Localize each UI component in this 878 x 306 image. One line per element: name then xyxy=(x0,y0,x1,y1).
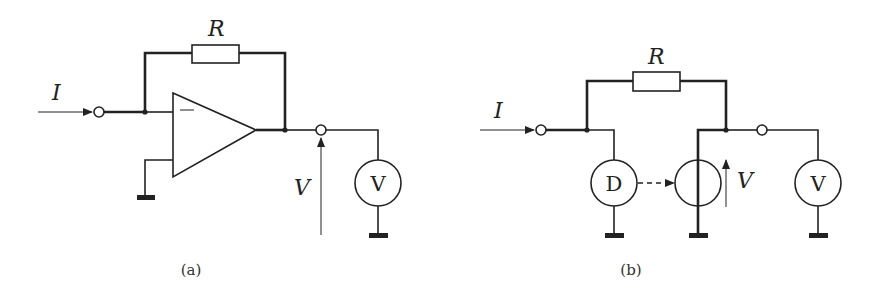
caption-a: (a) xyxy=(181,261,202,279)
voltage-label: V xyxy=(737,168,755,193)
feedback-wire-right xyxy=(680,81,726,130)
op-amp xyxy=(173,93,256,177)
ground-icon xyxy=(809,233,828,238)
output-terminal xyxy=(316,125,326,135)
resistor-label: R xyxy=(647,44,665,69)
feedback-resistor xyxy=(192,45,239,63)
voltmeter-wire xyxy=(326,130,378,160)
voltmeter-label: V xyxy=(369,172,386,196)
ground-icon xyxy=(369,233,388,238)
panel-a: I R V V (a) xyxy=(38,16,401,279)
ground-icon xyxy=(605,233,624,238)
panel-b: I R D V V (b) xyxy=(480,44,841,279)
current-label: I xyxy=(51,80,62,105)
voltmeter-wire xyxy=(767,130,818,160)
resistor-label: R xyxy=(207,16,225,41)
input-terminal xyxy=(94,107,104,117)
ground-icon xyxy=(689,233,708,238)
circuit-diagram: I R V V (a) xyxy=(0,0,878,306)
detector-label: D xyxy=(606,172,623,196)
voltage-label: V xyxy=(294,175,312,200)
feedback-wire-left xyxy=(587,81,633,130)
caption-b: (b) xyxy=(620,261,641,279)
current-label: I xyxy=(493,98,504,123)
output-terminal xyxy=(757,125,767,135)
feedback-resistor xyxy=(633,72,680,91)
voltmeter-label: V xyxy=(809,172,826,196)
noninverting-wire xyxy=(145,160,173,196)
feedback-wire-right xyxy=(239,53,285,130)
input-terminal xyxy=(536,125,546,135)
ground-icon xyxy=(137,195,155,200)
detector-wire xyxy=(587,130,614,160)
